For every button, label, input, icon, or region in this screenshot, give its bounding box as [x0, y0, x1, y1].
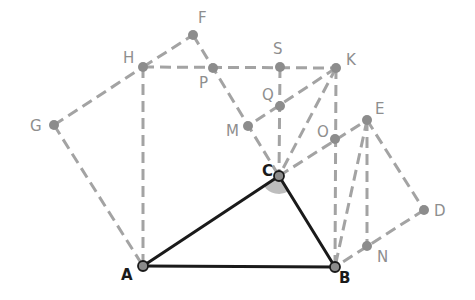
label-f: F	[198, 9, 207, 27]
segment-gh	[54, 67, 143, 125]
label-h: H	[123, 49, 134, 67]
label-q: Q	[262, 86, 274, 104]
side-ca	[143, 176, 279, 266]
point-q	[275, 101, 285, 111]
label-o: O	[317, 123, 329, 141]
construction-lines	[54, 35, 424, 267]
label-b: B	[339, 269, 350, 287]
segment-hk	[143, 67, 336, 68]
point-labels: ABCDEFGHKMNOPQS	[30, 9, 446, 287]
triangle-abc	[143, 176, 335, 267]
point-g	[49, 120, 59, 130]
label-d: D	[434, 202, 446, 220]
segment-hf	[143, 35, 193, 67]
label-n: N	[377, 248, 388, 266]
point-f	[188, 30, 198, 40]
segment-kc	[279, 68, 336, 176]
point-k	[331, 63, 341, 73]
label-m: M	[226, 122, 239, 140]
point-c	[274, 171, 284, 181]
point-m	[243, 121, 253, 131]
geometry-diagram: ABCDEFGHKMNOPQS	[0, 0, 475, 300]
label-s: S	[273, 40, 283, 58]
point-s	[275, 62, 285, 72]
label-p: P	[199, 74, 208, 92]
label-k: K	[346, 51, 357, 69]
point-p	[208, 63, 218, 73]
side-ab	[143, 266, 335, 267]
diagram-svg: ABCDEFGHKMNOPQS	[0, 0, 475, 300]
side-bc	[279, 176, 335, 267]
point-h	[138, 62, 148, 72]
segment-ed	[367, 120, 424, 210]
label-g: G	[30, 117, 42, 135]
segment-sc	[279, 67, 280, 176]
point-n	[362, 241, 372, 251]
point-d	[419, 205, 429, 215]
point-o	[330, 134, 340, 144]
label-c: C	[262, 162, 273, 180]
label-a: A	[121, 266, 133, 284]
label-e: E	[375, 100, 384, 118]
point-e	[362, 115, 372, 125]
point-a	[138, 261, 148, 271]
segment-ga	[54, 125, 143, 266]
segment-kb	[335, 68, 336, 267]
segment-fc	[193, 35, 279, 176]
